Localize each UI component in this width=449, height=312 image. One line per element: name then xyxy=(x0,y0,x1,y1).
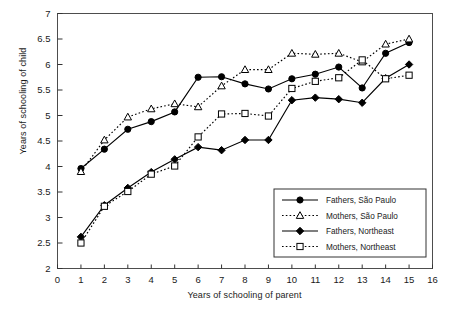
y-tick-label: 2.5 xyxy=(37,237,50,248)
chart-legend: Fathers, São PauloMothers, São PauloFath… xyxy=(274,189,426,257)
data-point xyxy=(406,72,412,78)
x-tick-label: 11 xyxy=(310,274,320,285)
line-chart: 012345678910111213141516 22.533.544.555.… xyxy=(0,0,449,312)
x-tick-label: 5 xyxy=(172,274,177,285)
y-tick-label: 5 xyxy=(45,110,50,121)
data-point xyxy=(148,171,154,177)
y-tick-label: 3 xyxy=(45,212,50,223)
data-point xyxy=(336,64,342,70)
x-tick-label: 1 xyxy=(78,274,83,285)
x-tick-label: 2 xyxy=(102,274,107,285)
legend-label: Fathers, Northeast xyxy=(326,227,395,236)
data-point xyxy=(359,57,365,63)
y-tick-label: 2 xyxy=(45,263,50,274)
data-point xyxy=(218,74,224,80)
x-tick-label: 3 xyxy=(125,274,130,285)
data-point xyxy=(336,75,342,81)
data-point xyxy=(383,76,389,82)
data-point xyxy=(148,119,154,125)
data-point xyxy=(125,188,131,194)
data-point xyxy=(242,110,248,116)
x-tick-label: 4 xyxy=(149,274,154,285)
x-tick-label: 13 xyxy=(357,274,368,285)
x-tick-label: 12 xyxy=(333,274,344,285)
legend-marker xyxy=(297,197,303,203)
x-tick-label: 16 xyxy=(427,274,438,285)
y-tick-label: 7 xyxy=(45,8,50,19)
x-tick-label: 14 xyxy=(380,274,391,285)
x-tick-label: 7 xyxy=(219,274,224,285)
y-tick-label: 6.5 xyxy=(37,33,50,44)
y-tick-label: 4 xyxy=(45,161,50,172)
x-tick-label: 15 xyxy=(404,274,415,285)
legend-label: Mothers, São Paulo xyxy=(326,212,398,221)
data-point xyxy=(383,50,389,56)
data-point xyxy=(195,74,201,80)
x-tick-label: 8 xyxy=(242,274,247,285)
data-point xyxy=(359,85,365,91)
data-point xyxy=(289,76,295,82)
data-point xyxy=(218,111,224,117)
y-tick-label: 6 xyxy=(45,59,50,70)
data-point xyxy=(265,113,271,119)
data-point xyxy=(125,126,131,132)
data-point xyxy=(312,71,318,77)
y-tick-label: 5.5 xyxy=(37,84,50,95)
x-tick-label: 6 xyxy=(195,274,200,285)
data-point xyxy=(265,86,271,92)
legend-marker xyxy=(297,243,303,249)
y-tick-label: 3.5 xyxy=(37,186,50,197)
x-tick-label: 0 xyxy=(55,274,60,285)
legend-label: Fathers, São Paulo xyxy=(326,196,397,205)
x-tick-label: 10 xyxy=(287,274,298,285)
data-point xyxy=(78,240,84,246)
data-point xyxy=(242,81,248,87)
data-point xyxy=(101,146,107,152)
data-point xyxy=(289,85,295,91)
data-point xyxy=(172,109,178,115)
data-point xyxy=(195,134,201,140)
data-point xyxy=(172,163,178,169)
data-point xyxy=(312,78,318,84)
x-tick-label: 9 xyxy=(266,274,271,285)
y-axis-tick-labels: 22.533.544.555.566.57 xyxy=(37,8,50,274)
y-tick-label: 4.5 xyxy=(37,135,50,146)
legend-label: Mothers, Northeast xyxy=(326,243,396,252)
chart-figure: 012345678910111213141516 22.533.544.555.… xyxy=(0,0,449,312)
x-axis-tick-labels: 012345678910111213141516 xyxy=(55,274,438,285)
data-point xyxy=(101,203,107,209)
